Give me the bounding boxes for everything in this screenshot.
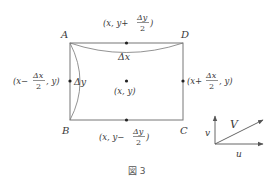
- left-mid-label: (x− Δx 2 , y): [13, 71, 60, 91]
- corner-label-b: B: [61, 125, 69, 136]
- top-mid-label: (x, y+ Δy 2 ): [103, 13, 153, 33]
- right-mid-num: Δx: [205, 71, 217, 80]
- corner-label-c: C: [180, 125, 188, 136]
- left-midpoint: [68, 79, 71, 82]
- delta-x-label: Δx: [117, 51, 131, 62]
- right-mid-prefix: (x+: [187, 76, 202, 86]
- top-mid-suffix: ): [149, 18, 153, 28]
- top-mid-den: 2: [140, 24, 145, 33]
- center-point: [125, 79, 128, 82]
- left-mid-den: 2: [36, 82, 41, 91]
- bottom-mid-suffix: ): [145, 132, 149, 142]
- top-mid-num: Δy: [136, 13, 148, 22]
- bottom-midpoint: [125, 118, 128, 121]
- velocity-label: V: [230, 118, 239, 131]
- control-volume-diagram: A D B C Δx Δy (x, y) (x, y+ Δy 2 ) (x, y…: [0, 0, 276, 185]
- figure-caption: 図 3: [128, 166, 146, 176]
- delta-y-label: Δy: [73, 76, 87, 87]
- left-mid-num: Δx: [32, 71, 44, 80]
- left-mid-suffix: , y): [46, 76, 60, 86]
- u-component-label: u: [236, 149, 242, 159]
- top-midpoint: [125, 41, 128, 44]
- bottom-mid-num: Δy: [132, 127, 144, 136]
- v-component-label: v: [205, 128, 210, 138]
- velocity-arrow: [215, 120, 263, 144]
- bottom-mid-prefix: (x, y−: [99, 132, 124, 142]
- top-mid-prefix: (x, y+: [103, 18, 128, 28]
- left-mid-prefix: (x−: [13, 76, 28, 86]
- bottom-mid-label: (x, y− Δy 2 ): [99, 127, 149, 147]
- bottom-mid-den: 2: [136, 138, 141, 147]
- corner-label-a: A: [60, 29, 68, 40]
- velocity-vector-diagram: V u v: [205, 116, 263, 159]
- corner-label-d: D: [180, 29, 189, 40]
- right-mid-label: (x+ Δx 2 , y): [187, 71, 233, 91]
- right-mid-den: 2: [209, 82, 214, 91]
- right-mid-suffix: , y): [219, 76, 233, 86]
- right-midpoint: [181, 79, 184, 82]
- center-label: (x, y): [114, 86, 136, 96]
